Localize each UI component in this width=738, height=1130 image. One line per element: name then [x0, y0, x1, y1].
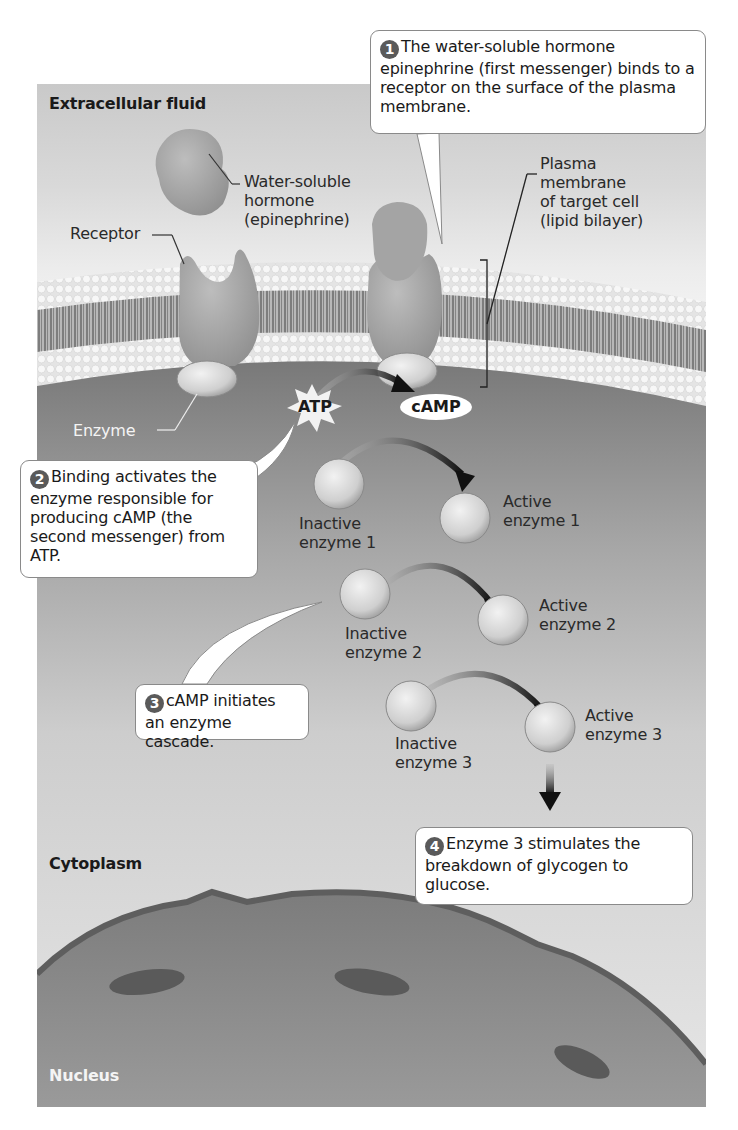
step-2-number-icon: 2: [30, 470, 49, 489]
step-1-text: The water-soluble hormone epinephrine (f…: [380, 37, 695, 116]
diagram-stage: Extracellular fluid Cytoplasm Nucleus Wa…: [0, 0, 738, 1130]
step-3-number-icon: 3: [145, 694, 164, 713]
region-label-cytoplasm: Cytoplasm: [49, 854, 142, 873]
step-3-callout: 3cAMP initiates an enzyme cascade.: [135, 684, 309, 740]
label-enzyme: Enzyme: [73, 421, 135, 440]
label-camp: cAMP: [400, 394, 472, 420]
step-4-callout: 4Enzyme 3 stimulates the breakdown of gl…: [415, 827, 693, 905]
region-label-nucleus: Nucleus: [49, 1066, 119, 1085]
step-1-number-icon: 1: [380, 40, 399, 59]
label-inactive-enzyme-2: Inactive enzyme 2: [345, 624, 422, 662]
label-inactive-enzyme-1: Inactive enzyme 1: [299, 514, 376, 552]
diagram-panel: Extracellular fluid Cytoplasm Nucleus Wa…: [37, 84, 706, 1107]
label-active-enzyme-3: Active enzyme 3: [585, 706, 662, 744]
step-4-number-icon: 4: [425, 837, 444, 856]
label-inactive-enzyme-3: Inactive enzyme 3: [395, 734, 472, 772]
label-atp: ATP: [285, 397, 345, 416]
label-receptor: Receptor: [70, 224, 140, 243]
step-2-callout: 2Binding activates the enzyme responsibl…: [20, 460, 258, 578]
label-hormone: Water-soluble hormone (epinephrine): [244, 172, 351, 229]
label-active-enzyme-1: Active enzyme 1: [503, 492, 580, 530]
region-label-extracellular: Extracellular fluid: [49, 94, 206, 113]
label-active-enzyme-2: Active enzyme 2: [539, 596, 616, 634]
step-1-callout: 1The water-soluble hormone epinephrine (…: [370, 30, 706, 134]
step-2-text: Binding activates the enzyme responsible…: [30, 467, 225, 565]
label-plasma-membrane: Plasma membrane of target cell (lipid bi…: [540, 154, 643, 230]
step-4-text: Enzyme 3 stimulates the breakdown of gly…: [425, 834, 640, 894]
